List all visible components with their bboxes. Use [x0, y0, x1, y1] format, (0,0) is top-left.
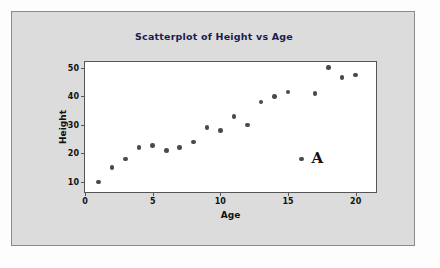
- scatter-point: [299, 157, 304, 162]
- y-axis-tick-label: 10: [68, 178, 79, 187]
- chart-figure-panel: Scatterplot of Height vs Age Height Age …: [11, 11, 415, 246]
- y-axis-tick-label: 40: [68, 92, 79, 101]
- scatter-point: [191, 140, 196, 145]
- scatter-point: [340, 75, 345, 80]
- plot-area: 1020304050 05101520 A: [84, 61, 377, 193]
- scatter-point: [353, 73, 358, 78]
- scatter-point: [326, 65, 331, 70]
- x-axis-tick-label: 5: [150, 197, 156, 206]
- x-axis-tick: [356, 192, 357, 196]
- y-axis-tick-label: 50: [68, 63, 79, 72]
- scatter-point: [110, 165, 115, 170]
- scatter-point: [313, 91, 318, 96]
- scatter-point: [245, 123, 250, 128]
- x-axis-tick-label: 20: [350, 197, 361, 206]
- scatter-point: [272, 94, 277, 99]
- y-axis-tick-label: 30: [68, 120, 79, 129]
- scatter-point: [96, 180, 101, 185]
- scatter-points-layer: [85, 62, 376, 192]
- x-axis-tick: [220, 192, 221, 196]
- scatter-point: [137, 145, 142, 150]
- x-axis-tick: [85, 192, 86, 196]
- scatter-point: [218, 128, 223, 133]
- outlier-annotation-label: A: [312, 151, 324, 166]
- scatter-point: [232, 114, 237, 119]
- y-axis-tick-label: 20: [68, 149, 79, 158]
- scatter-point: [259, 100, 264, 105]
- x-axis-tick-label: 10: [215, 197, 226, 206]
- page-background: Scatterplot of Height vs Age Height Age …: [0, 0, 440, 268]
- scatter-point: [123, 157, 128, 162]
- chart-title: Scatterplot of Height vs Age: [12, 31, 416, 42]
- scatter-point: [205, 125, 210, 130]
- scatter-point: [177, 145, 182, 150]
- y-axis-title: Height: [58, 110, 68, 144]
- scatter-point: [150, 143, 155, 148]
- scatter-point: [164, 148, 169, 153]
- x-axis-title: Age: [84, 210, 377, 220]
- x-axis-tick: [288, 192, 289, 196]
- scatter-point: [286, 90, 291, 95]
- x-axis-tick: [153, 192, 154, 196]
- x-axis-tick-label: 0: [82, 197, 88, 206]
- x-axis-tick-label: 15: [282, 197, 293, 206]
